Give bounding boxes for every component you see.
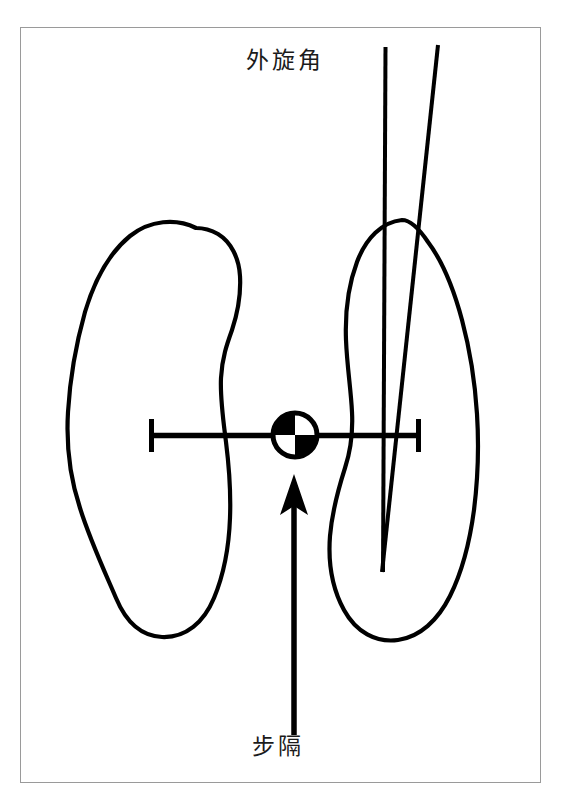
external-rotation-angle-label: 外旋角 (246, 49, 324, 72)
reference-vertical-line (383, 47, 386, 572)
foot-axis-line (382, 45, 438, 572)
footprint-diagram (0, 0, 567, 798)
right-footprint-outline (330, 220, 478, 640)
step-width-label: 步隔 (252, 735, 304, 758)
step-width-arrow (280, 474, 308, 735)
center-marker (273, 413, 317, 457)
figure-page: 外旋角 步隔 (0, 0, 567, 798)
